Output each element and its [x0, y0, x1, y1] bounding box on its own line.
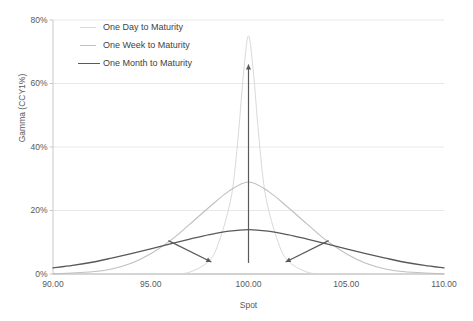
- vertical-peak-arrow: [246, 64, 251, 262]
- gamma-vs-spot-chart: Gamma (CCY1%) Spot 0%20%40%60%80% 90.009…: [0, 0, 473, 321]
- legend-line-icon: [78, 59, 100, 68]
- legend-item[interactable]: One Day to Maturity: [78, 18, 192, 36]
- y-tick-label: 60%: [16, 78, 48, 88]
- legend-line-icon: [78, 41, 100, 50]
- x-tick-label: 105.00: [323, 279, 369, 289]
- legend-item-label: One Week to Maturity: [103, 40, 190, 50]
- legend-item[interactable]: One Month to Maturity: [78, 54, 192, 72]
- legend-item-label: One Month to Maturity: [103, 58, 192, 68]
- y-tick-label: 80%: [16, 15, 48, 25]
- y-tick-label: 40%: [16, 142, 48, 152]
- x-tick-label: 90.00: [30, 279, 76, 289]
- x-tick-label: 110.00: [421, 279, 467, 289]
- plot-canvas: [0, 0, 473, 321]
- y-tick-label: 0%: [16, 269, 48, 279]
- right-spread-arrow: [286, 241, 329, 262]
- annotation-arrows: [168, 64, 328, 262]
- legend-line-icon: [78, 23, 100, 32]
- y-tick-label: 20%: [16, 205, 48, 215]
- left-spread-arrow: [168, 241, 211, 262]
- arrow-shaft: [286, 241, 329, 262]
- legend-item[interactable]: One Week to Maturity: [78, 36, 192, 54]
- arrow-head: [246, 64, 251, 69]
- arrow-shaft: [168, 241, 211, 262]
- legend-item-label: One Day to Maturity: [103, 22, 183, 32]
- x-tick-label: 100.00: [226, 279, 272, 289]
- chart-legend: One Day to MaturityOne Week to MaturityO…: [78, 18, 192, 72]
- x-tick-label: 95.00: [128, 279, 174, 289]
- x-axis-title: Spot: [53, 300, 444, 310]
- y-tick-marks: [50, 20, 54, 274]
